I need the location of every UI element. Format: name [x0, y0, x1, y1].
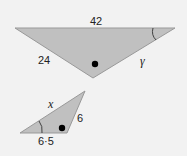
- large-triangle-shape: [15, 28, 175, 78]
- large-triangle: 42 24 γ: [15, 15, 175, 78]
- label-side-42: 42: [90, 15, 102, 27]
- label-side-6: 6: [77, 112, 83, 124]
- large-dot-marker: [92, 61, 98, 67]
- label-side-gamma: γ: [140, 54, 145, 68]
- label-side-6-5: 6·5: [38, 135, 54, 147]
- similar-triangles-diagram: 42 24 γ x 6 6·5: [0, 0, 187, 156]
- label-side-24: 24: [38, 54, 50, 66]
- small-dot-marker: [59, 125, 65, 131]
- small-triangle: x 6 6·5: [20, 91, 85, 147]
- label-side-x: x: [47, 97, 54, 111]
